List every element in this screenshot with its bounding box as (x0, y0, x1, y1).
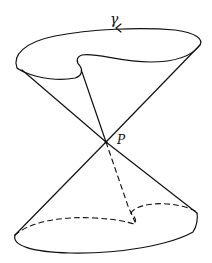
curve-gamma (16, 29, 201, 80)
lower-right-generator (106, 142, 197, 213)
gamma-label: γ (110, 11, 119, 27)
lower-left-generator (15, 142, 106, 235)
apex-point (105, 141, 108, 144)
apex-label: P (116, 133, 126, 147)
light-cone-diagram: γ P (0, 0, 212, 263)
